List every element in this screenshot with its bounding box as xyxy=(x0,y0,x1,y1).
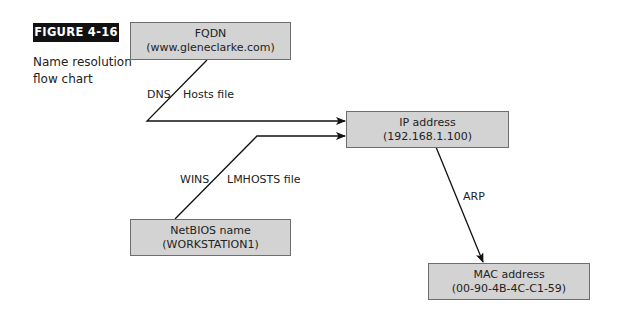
ip-address-title: IP address xyxy=(347,116,508,130)
fqdn-value: (www.gleneclarke.com) xyxy=(131,41,290,55)
arp-label: ARP xyxy=(463,190,485,203)
lmhosts-file-label: LMHOSTS file xyxy=(227,173,300,186)
mac-address-value: (00-90-4B-4C-C1-59) xyxy=(429,282,589,296)
mac-address-node: MAC address (00-90-4B-4C-C1-59) xyxy=(428,263,590,300)
arp-connector xyxy=(436,147,483,262)
ip-address-value: (192.168.1.100) xyxy=(347,130,508,144)
netbios-value: (WORKSTATION1) xyxy=(131,238,290,252)
ip-address-node: IP address (192.168.1.100) xyxy=(346,111,509,148)
netbios-title: NetBIOS name xyxy=(131,224,290,238)
fqdn-node: FQDN (www.gleneclarke.com) xyxy=(130,22,291,60)
dns-connector xyxy=(147,60,345,121)
mac-address-title: MAC address xyxy=(429,268,589,282)
netbios-node: NetBIOS name (WORKSTATION1) xyxy=(130,219,291,256)
wins-label: WINS xyxy=(180,173,209,186)
dns-label: DNS xyxy=(147,88,171,101)
hosts-file-label: Hosts file xyxy=(183,88,234,101)
fqdn-title: FQDN xyxy=(131,27,290,41)
